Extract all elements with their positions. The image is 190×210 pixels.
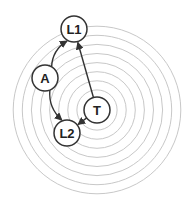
node-label: L1	[66, 22, 81, 37]
edge-A-to-L2	[50, 90, 62, 120]
node-label: A	[40, 71, 50, 86]
node-label: T	[93, 103, 101, 118]
edge-A-to-L1	[52, 41, 67, 67]
node-t: T	[84, 97, 110, 123]
diagram-canvas: L1ATL2	[0, 0, 190, 210]
node-label: L2	[59, 126, 74, 141]
diagram-svg: L1ATL2	[0, 0, 190, 210]
edge-T-to-L1	[78, 42, 94, 97]
node-l2: L2	[54, 120, 80, 146]
node-l1: L1	[61, 16, 87, 42]
node-a: A	[32, 65, 58, 91]
